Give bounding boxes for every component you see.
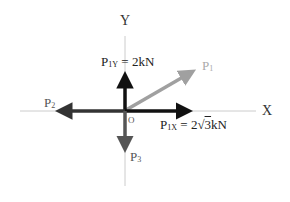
y-axis-label: Y bbox=[120, 14, 130, 28]
p1x-label: P1X = 2√3kN bbox=[160, 118, 227, 132]
force-diagram: Y X O P1Y = 2kN P1 P2 P1X = 2√3kN P3 bbox=[0, 0, 290, 202]
p1-label: P1 bbox=[202, 59, 213, 73]
origin-label: O bbox=[128, 116, 135, 125]
p3-label: P3 bbox=[130, 150, 141, 164]
x-axis-label: X bbox=[262, 104, 272, 118]
p1-arrow bbox=[126, 73, 190, 110]
p2-label: P2 bbox=[44, 96, 55, 110]
p1y-label: P1Y = 2kN bbox=[101, 55, 154, 69]
